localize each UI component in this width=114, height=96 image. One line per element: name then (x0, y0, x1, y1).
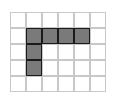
grid-cell (10, 28, 26, 44)
grid-cell (58, 44, 74, 60)
filled-cell (26, 28, 42, 44)
grid-cell (74, 44, 90, 60)
grid-cell (58, 12, 74, 28)
grid-cell (74, 76, 90, 92)
grid-cell (42, 76, 58, 92)
grid-cell (10, 60, 26, 76)
grid-cell (26, 76, 42, 92)
grid-cell (90, 12, 106, 28)
grid-cell (42, 12, 58, 28)
filled-cell (58, 28, 74, 44)
grid-cell (90, 60, 106, 76)
grid-cell (74, 60, 90, 76)
grid-cell (74, 12, 90, 28)
grid-cell (90, 44, 106, 60)
filled-cell (26, 44, 42, 60)
grid-cell (90, 28, 106, 44)
grid-cell (10, 44, 26, 60)
grid-cell (42, 44, 58, 60)
filled-cell (74, 28, 90, 44)
grid-cell (58, 76, 74, 92)
grid-cell (90, 76, 106, 92)
grid-cell (58, 60, 74, 76)
grid-cell (10, 76, 26, 92)
filled-cell (26, 60, 42, 76)
grid-cell (10, 12, 26, 28)
filled-cell (42, 28, 58, 44)
grid-cell (42, 60, 58, 76)
grid-cell (26, 12, 42, 28)
